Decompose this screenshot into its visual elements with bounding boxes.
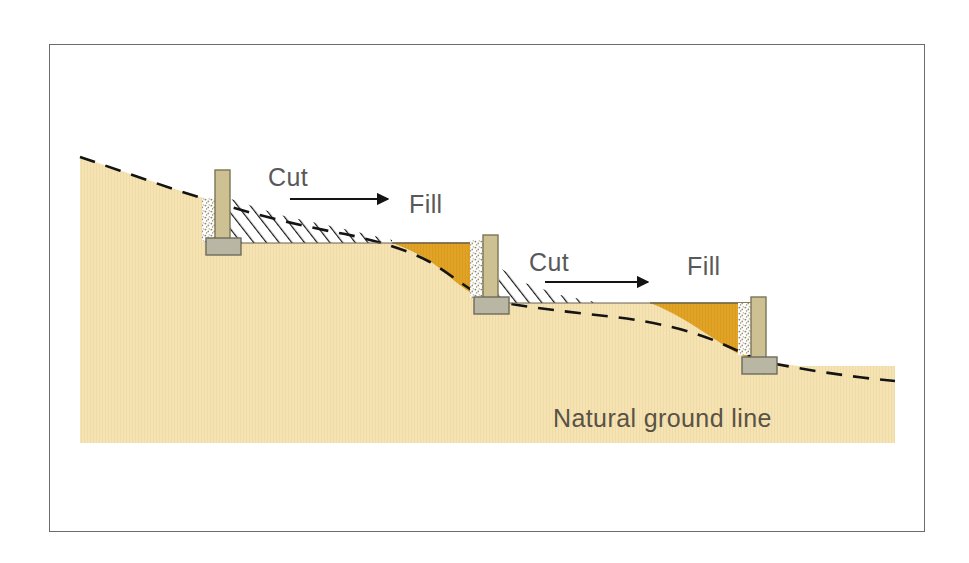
- wall-1-stem: [215, 170, 230, 242]
- label-natural-ground-line: Natural ground line: [553, 404, 772, 433]
- wall-1-footing: [206, 238, 241, 255]
- diagram-canvas: Cut Fill Cut Fill Natural ground line: [0, 0, 969, 563]
- wall-1-gravel-drain: [202, 198, 216, 242]
- wall-3-footing: [742, 357, 777, 374]
- label-cut-1: Cut: [268, 163, 308, 192]
- cross-section-drawing: [0, 0, 969, 563]
- label-cut-2: Cut: [529, 248, 569, 277]
- wall-2-footing: [474, 297, 509, 314]
- wall-3-stem: [751, 297, 766, 361]
- label-fill-2: Fill: [687, 252, 721, 281]
- retaining-wall-3: [738, 297, 777, 374]
- wall-2-gravel-drain: [470, 240, 484, 298]
- label-fill-1: Fill: [409, 190, 443, 219]
- cut-zone-1: [219, 198, 392, 243]
- wall-3-gravel-drain: [738, 303, 752, 355]
- wall-2-stem: [483, 235, 498, 301]
